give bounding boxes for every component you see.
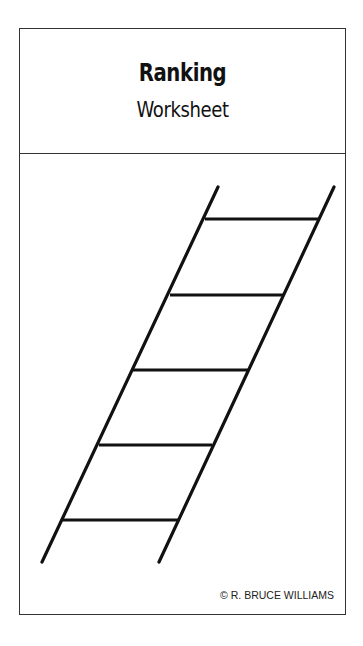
- ladder-rail-right: [159, 187, 334, 562]
- ladder-drawing: [0, 0, 363, 646]
- ladder-rail-left: [42, 187, 218, 562]
